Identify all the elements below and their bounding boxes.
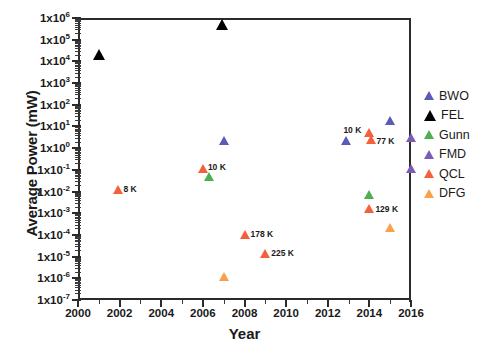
data-point-bwo	[219, 136, 229, 145]
y-tick-minor	[75, 98, 81, 99]
data-point-gunn	[364, 190, 374, 199]
y-tick-minor	[75, 268, 81, 269]
y-tick-minor	[75, 222, 81, 223]
y-tick-minor	[75, 285, 81, 286]
y-tick-minor	[75, 19, 81, 20]
y-tick-minor	[75, 175, 81, 176]
legend-marker-bwo-icon	[424, 91, 434, 100]
data-point-fel	[216, 19, 228, 30]
x-tick-label: 2002	[100, 307, 140, 319]
y-tick-minor	[75, 110, 81, 111]
y-tick-label: 1x103	[40, 75, 70, 89]
point-annotation: 10 K	[343, 125, 361, 135]
data-point-qcl	[260, 249, 270, 258]
x-tick-mark	[202, 300, 204, 307]
point-annotation: 129 K	[375, 204, 398, 214]
y-tick-minor	[75, 27, 81, 28]
legend-item-fel[interactable]: FEL	[424, 106, 470, 126]
legend-item-qcl[interactable]: QCL	[424, 164, 470, 184]
y-tick-label: 1x10-2	[37, 184, 70, 198]
point-annotation: 8 K	[124, 184, 137, 194]
y-tick-minor	[75, 198, 81, 199]
y-tick-minor	[75, 88, 81, 89]
y-tick-minor	[75, 272, 81, 273]
point-annotation: 77 K	[376, 136, 394, 146]
y-tick-minor	[75, 106, 81, 107]
y-tick-label: 1x10-7	[37, 292, 70, 306]
x-tick-label: 2008	[225, 307, 265, 319]
legend-item-bwo[interactable]: BWO	[424, 86, 470, 106]
x-tick-label: 2016	[391, 307, 431, 319]
chart-figure: Average Power (mW) Year 1x1061x1051x1041…	[0, 0, 495, 351]
y-tick-label: 1x10-6	[37, 270, 70, 284]
legend-item-dfg[interactable]: DFG	[424, 184, 470, 204]
y-tick-minor	[75, 92, 81, 93]
y-tick-label: 1x10-4	[37, 227, 70, 241]
y-tick-minor	[75, 65, 81, 66]
y-tick-minor	[75, 261, 81, 262]
x-tick-mark	[244, 300, 246, 307]
legend-label: QCL	[439, 167, 465, 181]
y-tick-minor	[75, 86, 81, 87]
y-tick-minor	[75, 111, 81, 112]
x-axis-title: Year	[78, 325, 411, 342]
y-tick-minor	[75, 116, 81, 117]
x-tick-mark	[285, 300, 287, 307]
y-tick-minor	[75, 258, 81, 259]
y-tick-minor	[75, 237, 81, 238]
y-tick-minor	[75, 70, 81, 71]
x-tick-minor	[265, 300, 266, 304]
legend-item-fmd[interactable]: FMD	[424, 145, 470, 165]
y-tick-label: 1x106	[40, 10, 70, 24]
x-tick-label: 2012	[308, 307, 348, 319]
data-point-bwo	[385, 116, 395, 125]
data-point-qcl	[366, 135, 376, 144]
chart-legend: BWOFELGunnFMDQCLDFG	[424, 86, 470, 203]
y-tick-minor	[75, 225, 81, 226]
x-tick-label: 2004	[141, 307, 181, 319]
x-tick-label: 2006	[183, 307, 223, 319]
legend-label: FEL	[441, 108, 464, 122]
data-point-fmd	[406, 133, 416, 142]
x-tick-mark	[368, 300, 370, 307]
x-tick-minor	[182, 300, 183, 304]
y-tick-minor	[75, 228, 81, 229]
legend-label: DFG	[439, 186, 465, 200]
y-tick-minor	[75, 29, 81, 30]
x-tick-mark	[119, 300, 121, 307]
legend-marker-qcl-icon	[424, 169, 434, 178]
y-tick-label: 1x105	[40, 32, 70, 46]
x-tick-mark	[410, 300, 412, 307]
y-tick-minor	[75, 214, 81, 215]
y-tick-minor	[75, 159, 81, 160]
legend-marker-fel-icon	[424, 110, 436, 121]
y-tick-minor	[75, 23, 81, 24]
y-tick-minor	[75, 215, 81, 216]
y-tick-minor	[75, 46, 81, 47]
y-tick-minor	[75, 259, 81, 260]
y-tick-label: 1x10-3	[37, 205, 70, 219]
y-tick-minor	[75, 207, 81, 208]
y-tick-minor	[75, 133, 81, 134]
y-tick-minor	[75, 43, 81, 44]
x-tick-label: 2010	[266, 307, 306, 319]
legend-marker-dfg-icon	[424, 189, 434, 198]
y-tick-minor	[75, 244, 81, 245]
y-tick-minor	[75, 131, 81, 132]
y-tick-minor	[75, 51, 81, 52]
y-tick-minor	[75, 142, 81, 143]
y-tick-minor	[75, 68, 81, 69]
y-tick-minor	[75, 90, 81, 91]
y-tick-minor	[75, 66, 81, 67]
y-tick-minor	[75, 163, 81, 164]
y-tick-minor	[75, 240, 81, 241]
x-tick-minor	[140, 300, 141, 304]
legend-item-gunn[interactable]: Gunn	[424, 125, 470, 145]
y-tick-minor	[75, 94, 81, 95]
y-tick-minor	[75, 127, 81, 128]
y-tick-minor	[75, 263, 81, 264]
data-point-qcl	[364, 204, 374, 213]
data-point-fel	[93, 49, 105, 60]
data-point-bwo	[341, 136, 351, 145]
y-tick-minor	[75, 293, 81, 294]
